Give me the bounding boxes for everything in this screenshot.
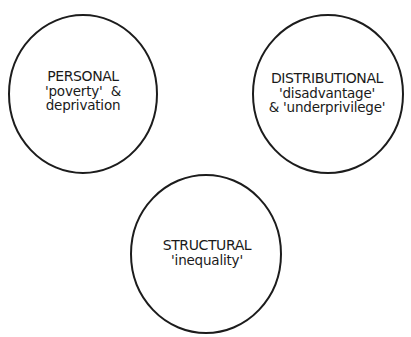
personal-label: PERSONAL 'poverty' & deprivation <box>45 69 121 113</box>
personal-title: PERSONAL <box>45 69 121 84</box>
distributional-label: DISTRIBUTIONAL 'disadvantage' & 'underpr… <box>269 71 386 115</box>
structural-title: STRUCTURAL <box>163 238 252 253</box>
structural-line-1: 'inequality' <box>163 253 252 268</box>
personal-line-1: 'poverty' & <box>45 84 121 99</box>
structural-label: STRUCTURAL 'inequality' <box>163 238 252 267</box>
distributional-line-2: & 'underprivilege' <box>269 100 386 115</box>
distributional-title: DISTRIBUTIONAL <box>269 71 386 86</box>
diagram-canvas <box>0 0 411 337</box>
personal-line-2: deprivation <box>45 98 121 113</box>
distributional-line-1: 'disadvantage' <box>269 86 386 101</box>
